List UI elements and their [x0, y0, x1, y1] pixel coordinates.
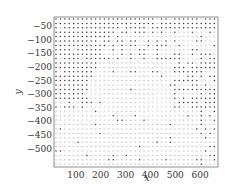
x-tick-label: 300: [117, 170, 134, 180]
vector-field: [55, 18, 216, 165]
y-tick-label: −100: [27, 35, 52, 45]
y-tick-label: −250: [27, 76, 52, 86]
y-axis-label: y: [13, 89, 23, 96]
y-tick-label: −400: [27, 116, 52, 126]
y-tick-label: −150: [27, 48, 52, 58]
x-tick-label: 500: [167, 170, 184, 180]
y-tick-label: −300: [27, 89, 52, 99]
y-tick-label: −350: [27, 103, 52, 113]
x-tick-label: 200: [92, 170, 109, 180]
x-axis-ticks: 100200300400500600: [67, 170, 209, 180]
y-tick-label: −500: [27, 144, 52, 154]
x-tick-label: 600: [192, 170, 209, 180]
y-tick-label: −50: [33, 21, 52, 31]
y-tick-label: −450: [27, 130, 52, 140]
plot-frame: [54, 17, 218, 167]
x-tick-label: 100: [67, 170, 84, 180]
x-axis-label: x: [144, 173, 149, 183]
quiver-chart: −50−100−150−200−250−300−350−400−450−500 …: [0, 0, 252, 190]
y-tick-label: −200: [27, 62, 52, 72]
y-axis-ticks: −50−100−150−200−250−300−350−400−450−500: [27, 21, 52, 154]
